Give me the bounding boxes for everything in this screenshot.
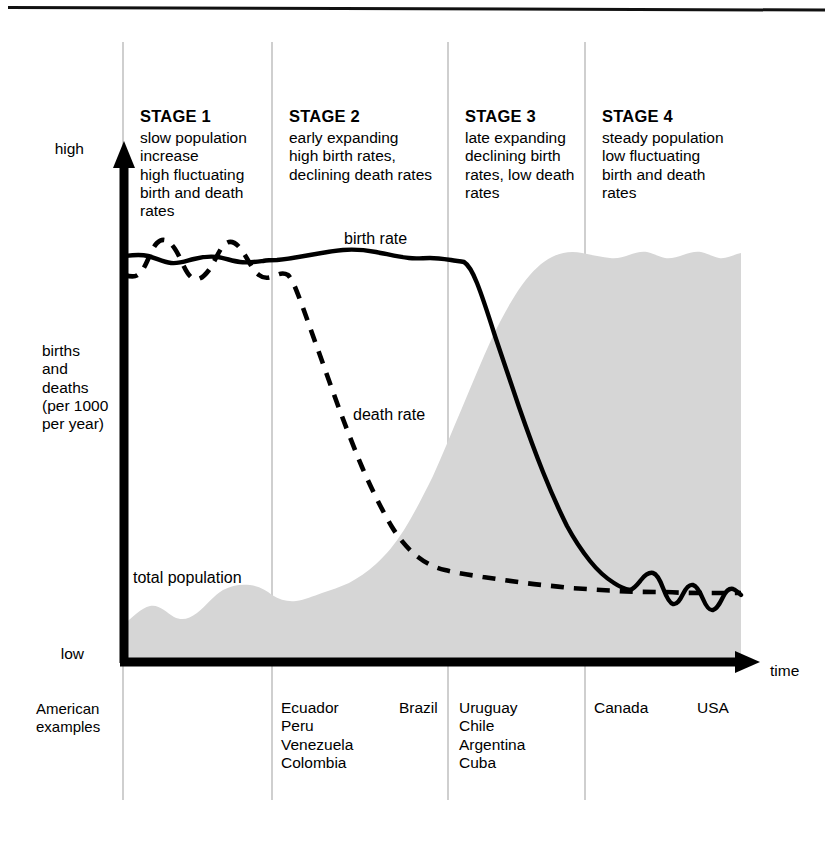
stage-4-title: STAGE 4: [602, 107, 673, 126]
demographic-transition-figure: high low births and deaths (per 1000 per…: [0, 0, 829, 847]
stage-4-example-canada: Canada: [594, 699, 648, 717]
stage-2-title: STAGE 2: [289, 107, 360, 126]
stage-3-examples: Uruguay Chile Argentina Cuba: [459, 699, 525, 772]
y-axis: [113, 141, 135, 663]
stage-4-example-usa: USA: [697, 699, 729, 717]
y-axis-low-label: low: [61, 645, 84, 663]
death-rate-label: death rate: [353, 406, 425, 425]
total-population-area: [123, 252, 741, 662]
stage-3-description: late expanding declining birth rates, lo…: [465, 129, 574, 202]
stage-1-description: slow population increase high fluctuatin…: [140, 129, 247, 220]
stage-4-description: steady population low fluctuating birth …: [602, 129, 724, 202]
stage-3-title: STAGE 3: [465, 107, 536, 126]
stage-2-description: early expanding high birth rates, declin…: [289, 129, 432, 184]
stage-2-example-brazil: Brazil: [399, 699, 438, 717]
birth-rate-label: birth rate: [344, 230, 407, 249]
american-examples-header: American examples: [36, 700, 100, 735]
stage-1-title: STAGE 1: [140, 107, 211, 126]
y-axis-title: births and deaths (per 1000 per year): [42, 342, 108, 433]
y-axis-high-label: high: [55, 140, 84, 158]
x-axis-title: time: [770, 662, 799, 680]
total-population-label: total population: [133, 569, 242, 588]
stage-2-examples: Ecuador Peru Venezuela Colombia: [281, 699, 353, 772]
